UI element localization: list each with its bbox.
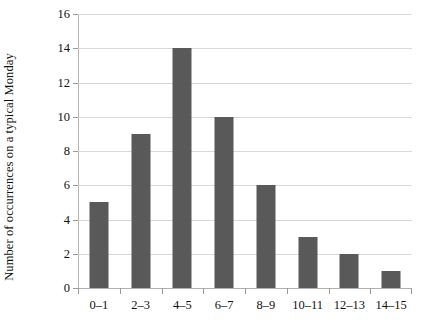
bar-slot	[245, 14, 287, 288]
bar[interactable]	[340, 254, 359, 288]
plot-area: 0246810121416	[78, 14, 412, 288]
bar[interactable]	[173, 48, 192, 288]
y-tick-label: 4	[32, 213, 70, 226]
y-tick-label: 8	[32, 145, 70, 158]
y-tick-label: 0	[32, 282, 70, 295]
bar-slot	[203, 14, 245, 288]
bar-slot	[370, 14, 412, 288]
bar-slot	[287, 14, 329, 288]
bars-layer	[78, 14, 412, 288]
bar[interactable]	[131, 134, 150, 288]
x-tick-mark	[329, 288, 330, 294]
x-tick-label: 14–15	[361, 298, 421, 313]
bar[interactable]	[382, 271, 401, 288]
x-axis-labels: 0–12–34–56–78–910–1112–1314–15	[78, 298, 412, 318]
x-axis-ticks	[78, 288, 412, 295]
x-tick-mark	[203, 288, 204, 294]
x-tick-mark	[411, 288, 412, 294]
x-tick-mark	[287, 288, 288, 294]
bar-slot	[120, 14, 162, 288]
bar-slot	[329, 14, 371, 288]
y-tick-label: 6	[32, 179, 70, 192]
bar[interactable]	[89, 202, 108, 288]
bar[interactable]	[298, 237, 317, 288]
y-tick-label: 2	[32, 248, 70, 261]
x-tick-mark	[162, 288, 163, 294]
y-tick-label: 10	[32, 111, 70, 124]
x-tick-mark	[78, 288, 79, 294]
y-axis-title: Number of occurrences on a typical Monda…	[0, 0, 18, 334]
bar[interactable]	[215, 117, 234, 288]
bar-slot	[78, 14, 120, 288]
y-tick-label: 14	[32, 42, 70, 55]
x-tick-mark	[120, 288, 121, 294]
x-tick-mark	[245, 288, 246, 294]
bar[interactable]	[256, 185, 275, 288]
bar-chart: Number of occurrences on a typical Monda…	[0, 0, 424, 334]
y-tick-label: 16	[32, 8, 70, 21]
x-tick-mark	[370, 288, 371, 294]
bar-slot	[162, 14, 204, 288]
y-tick-label: 12	[32, 76, 70, 89]
